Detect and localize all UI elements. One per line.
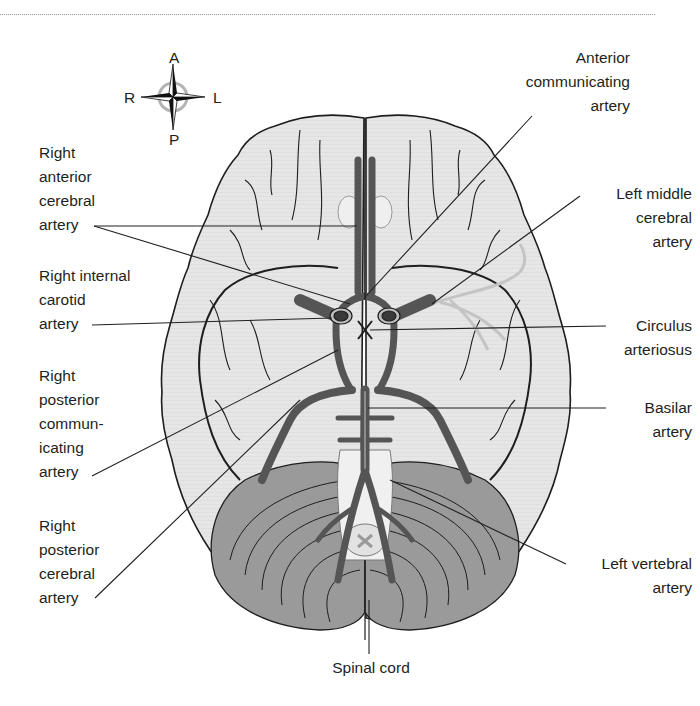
compass-right-label: R [124, 90, 135, 106]
label-basilar-artery: Basilar artery [645, 396, 692, 444]
label-left-middle-cerebral-artery: Left middle cerebral artery [616, 182, 692, 254]
compass-anterior-label: A [169, 50, 179, 66]
compass-left-label: L [213, 90, 222, 106]
compass-posterior-label: P [169, 132, 179, 148]
label-left-vertebral-artery: Left vertebral artery [602, 552, 692, 600]
label-spinal-cord: Spinal cord [316, 656, 426, 680]
label-right-posterior-cerebral-artery: Right posterior cerebral artery [39, 514, 99, 610]
label-right-anterior-cerebral-artery: Right anterior cerebral artery [39, 141, 95, 237]
label-right-internal-carotid-artery: Right internal carotid artery [39, 264, 130, 336]
label-anterior-communicating-artery: Anterior communicating artery [526, 46, 630, 118]
label-right-posterior-communicating-artery: Right posterior commun- icating artery [39, 364, 104, 484]
orientation-compass [141, 64, 205, 130]
label-circulus-arteriosus: Circulus arteriosus [624, 314, 692, 362]
